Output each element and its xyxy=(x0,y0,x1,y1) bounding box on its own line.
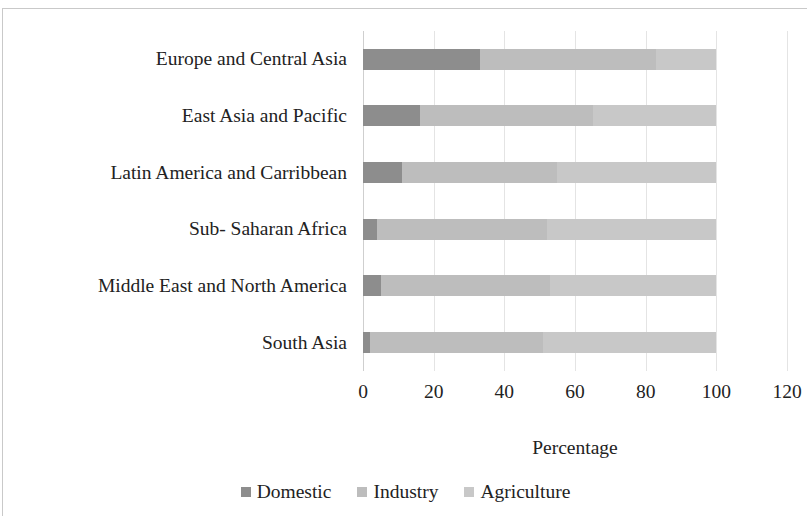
legend-item[interactable]: Domestic xyxy=(241,481,332,503)
y-axis-label: Middle East and North America xyxy=(98,258,347,315)
legend-item[interactable]: Agriculture xyxy=(464,481,570,503)
bar-segment-domestic[interactable] xyxy=(363,219,377,240)
stacked-bar[interactable] xyxy=(363,219,716,240)
stacked-bar[interactable] xyxy=(363,49,716,70)
chart-legend: DomesticIndustryAgriculture xyxy=(3,481,808,503)
bar-row[interactable] xyxy=(363,201,787,258)
bar-segment-agriculture[interactable] xyxy=(547,219,717,240)
x-axis-tick-label: 60 xyxy=(565,381,585,403)
bar-segment-industry[interactable] xyxy=(402,162,557,183)
bar-row[interactable] xyxy=(363,314,787,371)
legend-swatch-icon xyxy=(241,487,251,497)
bar-segment-industry[interactable] xyxy=(377,219,547,240)
bar-segment-domestic[interactable] xyxy=(363,162,402,183)
x-axis-title: Percentage xyxy=(363,437,787,459)
legend-label: Domestic xyxy=(257,481,332,503)
y-axis-label: Europe and Central Asia xyxy=(156,31,347,88)
stacked-bar[interactable] xyxy=(363,105,716,126)
y-axis-label: East Asia and Pacific xyxy=(182,88,347,145)
bar-row[interactable] xyxy=(363,88,787,145)
legend-label: Agriculture xyxy=(480,481,570,503)
bar-row[interactable] xyxy=(363,144,787,201)
y-axis-label: Sub- Saharan Africa xyxy=(189,201,347,258)
bar-row[interactable] xyxy=(363,31,787,88)
bar-segment-domestic[interactable] xyxy=(363,105,420,126)
y-axis-category-labels: Europe and Central AsiaEast Asia and Pac… xyxy=(11,31,355,371)
bar-segment-industry[interactable] xyxy=(381,275,551,296)
bar-segment-agriculture[interactable] xyxy=(593,105,717,126)
bar-segment-domestic[interactable] xyxy=(363,332,370,353)
bar-segment-agriculture[interactable] xyxy=(557,162,716,183)
bar-segment-agriculture[interactable] xyxy=(550,275,716,296)
legend-label: Industry xyxy=(373,481,438,503)
x-axis-tick-label: 20 xyxy=(424,381,444,403)
legend-swatch-icon xyxy=(464,487,474,497)
bar-row[interactable] xyxy=(363,258,787,315)
stacked-bar[interactable] xyxy=(363,275,716,296)
gridline-120 xyxy=(787,31,788,371)
x-axis-tick-label: 0 xyxy=(358,381,368,403)
bar-segment-domestic[interactable] xyxy=(363,49,480,70)
y-axis-label: South Asia xyxy=(262,314,347,371)
x-axis-tick-label: 120 xyxy=(772,381,801,403)
bar-segment-agriculture[interactable] xyxy=(656,49,716,70)
plot-area xyxy=(363,31,787,371)
bar-segment-industry[interactable] xyxy=(420,105,593,126)
bar-series-group xyxy=(363,31,787,371)
x-axis-tick-label: 100 xyxy=(702,381,731,403)
chart-container: Europe and Central AsiaEast Asia and Pac… xyxy=(2,8,807,516)
x-axis-tick-label: 80 xyxy=(636,381,656,403)
bar-segment-industry[interactable] xyxy=(370,332,543,353)
x-axis-tick-labels: 020406080100120 xyxy=(363,381,787,409)
x-axis-tick-label: 40 xyxy=(495,381,515,403)
y-axis-label: Latin America and Carribbean xyxy=(110,144,347,201)
bar-segment-domestic[interactable] xyxy=(363,275,381,296)
stacked-bar[interactable] xyxy=(363,162,716,183)
legend-swatch-icon xyxy=(357,487,367,497)
stacked-bar[interactable] xyxy=(363,332,716,353)
bar-segment-agriculture[interactable] xyxy=(543,332,716,353)
legend-item[interactable]: Industry xyxy=(357,481,438,503)
bar-segment-industry[interactable] xyxy=(480,49,657,70)
